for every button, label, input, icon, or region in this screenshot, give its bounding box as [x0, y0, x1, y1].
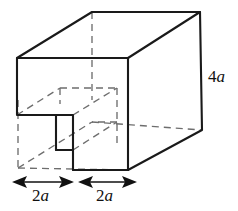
- width-left-dimension-label: 2a: [32, 186, 49, 205]
- width-left-label-variable: a: [41, 186, 50, 205]
- width-left-label-coefficient: 2: [32, 186, 41, 205]
- width-right-dimension-label: 2a: [96, 186, 113, 205]
- height-dimension-label: 4a: [208, 67, 225, 86]
- bottom-dimension-group: 2a 2a: [12, 176, 137, 205]
- width-right-label-variable: a: [105, 186, 114, 205]
- width-right-label-coefficient: 2: [96, 186, 105, 205]
- face-fills: [17, 12, 202, 170]
- solid-geometry-diagram: 4a 2a 2a: [0, 0, 238, 211]
- figure-container: 4a 2a 2a: [0, 0, 238, 211]
- height-label-variable: a: [217, 67, 226, 86]
